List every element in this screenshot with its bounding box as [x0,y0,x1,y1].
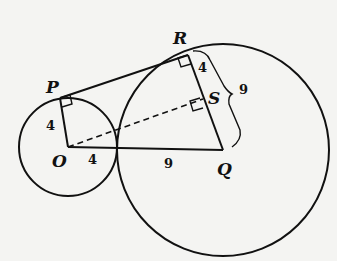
tangent-PR [60,55,188,98]
label-RQ-length: 9 [239,82,248,97]
label-O: O [52,151,67,171]
dashed-OS [68,99,203,147]
label-RS-length: 4 [198,60,207,75]
label-TQ-length: 9 [164,156,173,171]
label-P: P [46,77,59,97]
label-R: R [173,28,187,48]
segment-OQ [68,147,223,150]
label-OP-length: 4 [46,118,55,133]
label-S: S [208,88,220,108]
geometry-diagram: P R S O Q 4 4 4 9 9 [0,0,337,261]
label-Q: Q [217,159,232,179]
label-OT-length: 4 [88,152,97,167]
